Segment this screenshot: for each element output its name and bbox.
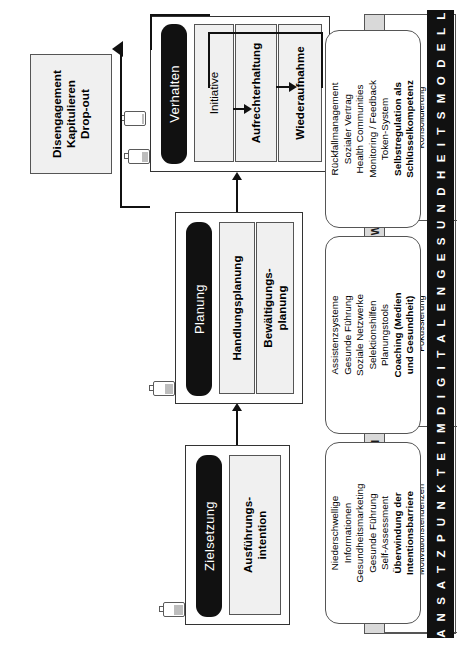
card1-bold1: Überwindung der [392, 492, 405, 573]
card1-line5: Self-Assessment [379, 496, 392, 570]
connector-dropout-right-rail [150, 14, 152, 50]
bewaeltigungsplanung-line2: planung [275, 285, 289, 330]
stage-pill-zielsetzung[interactable]: Zielsetzung [196, 455, 222, 617]
ausfuehrungsintention-line1: Ausführungs- [241, 497, 255, 573]
card1-line1: Niederschwellige [329, 496, 342, 571]
box-disengagement[interactable]: Disengagement Kapitulieren Drop-out [30, 54, 112, 174]
disengagement-line2: Kapitulieren [64, 80, 78, 148]
card-intervention-2[interactable]: Assistenzsysteme Gesunde Führung Soziale… [325, 236, 421, 434]
card2-line1: Assistenzsysteme [329, 295, 342, 374]
card1-line3: Gesundheitsmarketing [354, 484, 367, 583]
card2-line5: Planungstools [379, 304, 392, 366]
box-aufrechterhaltung[interactable]: Aufrechterhaltung [235, 24, 277, 162]
ansatzpunkte-banner: A N S A T Z P U N K T E I M D I G I T A … [427, 10, 454, 638]
card-intervention-3[interactable]: Rückfallmanagement Sozialer Vertrag Heal… [325, 30, 421, 228]
aufrechterhaltung-line1: Aufrechterhaltung [249, 43, 263, 143]
card3-line2: Sozialer Vertrag [342, 94, 355, 164]
card1-bold2: Intentionsbarriere [404, 491, 417, 575]
connector-aufrecht-wieder-head [289, 82, 297, 92]
card2-line3: Soziale Netzwerke [354, 294, 367, 376]
card3-bold1: Selbstregulation als [392, 82, 405, 176]
card3-line4: Monitoring / Feedback [367, 80, 380, 178]
card3-line5: Token-System [379, 98, 392, 161]
card3-bold2: Schlüsselkompetenz [404, 80, 417, 178]
stage-pill-planung[interactable]: Planung [186, 222, 212, 396]
relapse-loop-vertical [208, 32, 323, 34]
stage-pill-verhalten[interactable]: Verhalten [161, 24, 187, 164]
battery-behaviour-icon [124, 149, 150, 164]
handlungsplanung-line1: Handlungsplanung [230, 256, 244, 361]
card2-bold2: und Gesundheit) [404, 296, 417, 374]
card2-line2: Gesunde Führung [342, 295, 355, 375]
box-bewaeltigungsplanung[interactable]: Bewältigungs- planung [256, 222, 294, 394]
box-initiative[interactable]: Initiative [194, 24, 234, 162]
relapse-loop-top [208, 32, 210, 88]
connector-goal-planning-head [232, 403, 242, 411]
connector-initiative-aufrecht-head [244, 104, 252, 114]
box-wiederaufnahme[interactable]: Wiederaufnahme [278, 24, 322, 162]
disengagement-line3: Drop-out [78, 89, 92, 139]
card1-line4: Gesunde Führung [367, 493, 380, 573]
ausfuehrungsintention-line2: intention [255, 511, 269, 560]
card1-line2: Informationen [342, 503, 355, 563]
disengagement-line1: Disengagement [50, 70, 64, 158]
bewaeltigungsplanung-line1: Bewältigungs- [261, 268, 275, 347]
connector-planning-behaviour [236, 178, 238, 212]
connector-planning-behaviour-head [232, 172, 242, 180]
connector-dropout-stem [120, 206, 150, 208]
relapse-loop-bottom [321, 32, 323, 88]
card2-bold1: Coaching (Medien [392, 292, 405, 377]
box-ausfuehrungsintention[interactable]: Ausführungs- intention [229, 455, 281, 615]
battery-dropout-icon [120, 111, 146, 126]
wiederaufnahme-line1: Wiederaufnahme [293, 46, 307, 139]
connector-dropout-right-stem [150, 14, 210, 16]
battery-goal-icon [159, 602, 185, 617]
card2-line4: Selektionshilfen [367, 300, 380, 369]
battery-planning-icon [149, 381, 175, 396]
card-intervention-1[interactable]: Niederschwellige Informationen Gesundhei… [325, 442, 421, 624]
box-handlungsplanung[interactable]: Handlungsplanung [219, 222, 255, 394]
diagram-canvas: S E L B S T W I R K S A M K E I T S E R … [0, 0, 470, 648]
connector-goal-planning [236, 409, 238, 445]
connector-aufrecht-wieder [276, 86, 290, 88]
connector-dropout-head [112, 41, 123, 57]
card3-line3: Health Communities [354, 85, 367, 174]
card3-line1: Rückfallmanagement [329, 83, 342, 176]
connector-dropout-rail [120, 48, 122, 208]
